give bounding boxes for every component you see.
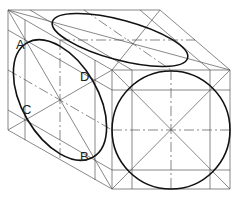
cube-ellipse-diagram: A D C B — [0, 0, 237, 198]
ellipses — [0, 3, 230, 189]
label-a: A — [16, 38, 25, 51]
label-b: B — [80, 150, 89, 163]
label-c: C — [22, 103, 31, 116]
label-d: D — [80, 70, 89, 83]
drawing — [0, 0, 237, 198]
construction-grid — [8, 10, 230, 189]
